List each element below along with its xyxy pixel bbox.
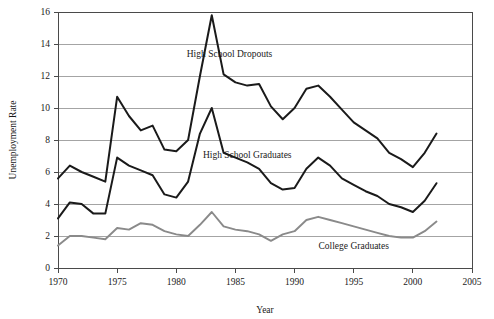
annotation-high-school-graduates: High School Graduates (203, 150, 292, 160)
x-tick-label: 2000 (403, 277, 422, 287)
y-tick-label: 12 (41, 71, 51, 81)
x-tick-label: 1995 (344, 277, 363, 287)
y-tick-label: 6 (45, 167, 50, 177)
x-tick-label: 2005 (463, 277, 482, 287)
x-tick-label: 1990 (285, 277, 304, 287)
x-tick-label: 1970 (49, 277, 68, 287)
y-tick-label: 2 (45, 231, 50, 241)
y-axis-ticks: 0246810121416 (41, 7, 59, 273)
y-tick-label: 8 (45, 135, 50, 145)
y-tick-label: 4 (45, 199, 50, 209)
chart-canvas: 0246810121416 19701975198019851990199520… (0, 0, 494, 319)
x-axis-title: Year (256, 305, 274, 315)
x-axis-ticks: 19701975198019851990199520002005 (49, 268, 482, 287)
y-tick-label: 16 (41, 7, 51, 17)
y-axis-title: Unemployment Rate (8, 101, 18, 180)
unemployment-rate-line-chart: 0246810121416 19701975198019851990199520… (0, 0, 494, 319)
x-tick-label: 1985 (226, 277, 245, 287)
y-tick-label: 10 (41, 103, 51, 113)
series-line-high-school-graduates (58, 108, 437, 218)
annotation-college-graduates: College Graduates (318, 241, 389, 251)
x-tick-label: 1980 (167, 277, 186, 287)
y-tick-label: 0 (45, 263, 50, 273)
annotation-high-school-dropouts: High School Dropouts (187, 49, 273, 59)
x-tick-label: 1975 (108, 277, 127, 287)
y-tick-label: 14 (41, 39, 51, 49)
series-annotations: High School DropoutsHigh School Graduate… (187, 49, 389, 251)
